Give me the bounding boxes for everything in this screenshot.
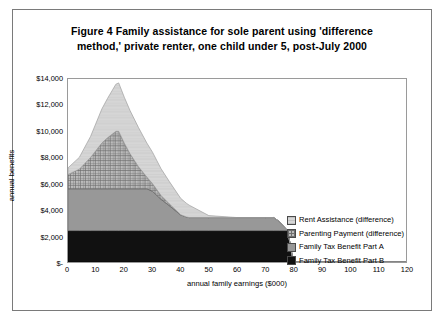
y-axis-ticks: $-$2,000$4,000$6,000$8,000$10,000$12,000… [21,78,63,263]
x-axis-tick-label: 30 [148,265,156,274]
y-axis-tick-label: $8,000 [40,153,63,162]
y-axis-tick-label: $14,000 [36,74,63,83]
y-axis-tick-label: $- [56,259,63,268]
figure-title: Figure 4 Family assistance for sole pare… [13,24,431,54]
y-axis-tick-label: $10,000 [36,126,63,135]
legend-item: Family Tax Benefit Part A [287,241,404,253]
chart-area: annual benefits $-$2,000$4,000$6,000$8,0… [67,78,407,263]
chart-legend: Rent Assistance (difference)Parenting Pa… [287,214,404,268]
figure-title-line-1: Figure 4 Family assistance for sole pare… [13,24,431,39]
legend-item: Rent Assistance (difference) [287,214,404,226]
x-axis-tick-label: 0 [65,265,69,274]
x-axis-tick-label: 40 [176,265,184,274]
y-axis-tick-label: $4,000 [40,206,63,215]
legend-label: Rent Assistance (difference) [299,214,394,226]
x-axis-tick-label: 50 [205,265,213,274]
legend-item: Family Tax Benefit Part B [287,255,404,267]
figure-title-line-2: method,' private renter, one child under… [13,39,431,54]
legend-swatch [287,216,296,225]
legend-item: Parenting Payment (difference) [287,228,404,240]
y-axis-tick-label: $6,000 [40,179,63,188]
y-axis-title: annual benefits [7,120,16,230]
legend-label: Parenting Payment (difference) [299,228,404,240]
x-axis-title: annual family earnings ($000) [67,279,407,288]
legend-label: Family Tax Benefit Part A [299,241,384,253]
legend-swatch [287,256,296,265]
x-axis-tick-label: 60 [233,265,241,274]
x-axis-tick-label: 10 [91,265,99,274]
figure-frame: Figure 4 Family assistance for sole pare… [12,9,432,311]
legend-swatch [287,229,296,238]
x-axis-tick-label: 70 [261,265,269,274]
legend-swatch [287,243,296,252]
legend-label: Family Tax Benefit Part B [299,255,384,267]
y-axis-tick-label: $12,000 [36,100,63,109]
x-axis-tick-label: 20 [120,265,128,274]
y-axis-tick-label: $2,000 [40,232,63,241]
